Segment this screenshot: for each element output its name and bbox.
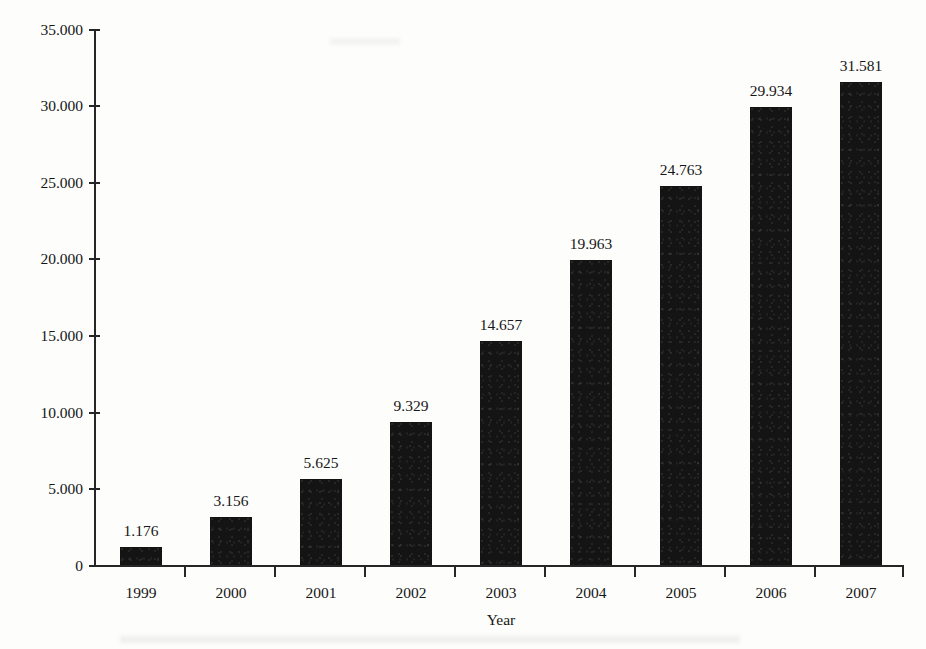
y-axis-tick-label: 35.000 (0, 22, 83, 38)
x-axis-label-2004: 2004 (551, 585, 631, 601)
bar-value-2001: 5.625 (281, 455, 361, 471)
x-axis-line (94, 565, 904, 567)
bar-2006 (750, 107, 792, 565)
bar-value-2005: 24.763 (641, 162, 721, 178)
bar-value-2004: 19.963 (551, 236, 631, 252)
x-axis-label-2006: 2006 (731, 585, 811, 601)
x-axis-tick (544, 567, 546, 577)
x-axis-tick (724, 567, 726, 577)
bar-value-1999: 1.176 (101, 523, 181, 539)
x-axis-tick (902, 567, 904, 577)
x-axis-tick (634, 567, 636, 577)
y-axis-title-label: Number of NPOs (0, 269, 63, 380)
x-axis-label-2002: 2002 (371, 585, 451, 601)
y-axis-tick-label: 10.000 (0, 405, 83, 421)
y-axis-line (94, 29, 96, 567)
bar-chart-figure: Number of NPOs 35.000 30.000 25.000 20.0… (0, 0, 926, 649)
bar-2004 (570, 260, 612, 565)
y-axis-tick-label: 15.000 (0, 328, 83, 344)
y-axis-tick-label: 5.000 (0, 481, 83, 497)
bar-2003 (480, 341, 522, 565)
bar-2005 (660, 186, 702, 565)
y-axis-tick (89, 182, 100, 184)
x-axis-label-2000: 2000 (191, 585, 271, 601)
y-axis-tick (89, 412, 100, 414)
scan-artifact (120, 636, 740, 643)
y-axis-tick (89, 335, 100, 337)
bar-value-2000: 3.156 (191, 493, 271, 509)
x-axis-label-2001: 2001 (281, 585, 361, 601)
y-axis-tick-label: 30.000 (0, 98, 83, 114)
y-axis-tick (89, 565, 100, 567)
x-axis-label-1999: 1999 (101, 585, 181, 601)
bar-value-2002: 9.329 (371, 398, 451, 414)
y-axis-tick (89, 488, 100, 490)
bar-value-2006: 29.934 (731, 83, 811, 99)
x-axis-tick (184, 567, 186, 577)
y-axis-tick-label: 20.000 (0, 251, 83, 267)
x-axis-title: Year (461, 611, 541, 629)
x-axis-tick (454, 567, 456, 577)
y-axis-tick-label: 25.000 (0, 175, 83, 191)
x-axis-label-2005: 2005 (641, 585, 721, 601)
bar-value-2003: 14.657 (461, 317, 541, 333)
x-axis-label-2007: 2007 (821, 585, 901, 601)
x-axis-tick (274, 567, 276, 577)
x-axis-tick (364, 567, 366, 577)
bar-2002 (390, 422, 432, 565)
scan-artifact (330, 39, 400, 44)
bar-2007 (840, 82, 882, 565)
y-axis-tick-label: 0 (0, 558, 83, 574)
bar-2001 (300, 479, 342, 565)
x-axis-label-2003: 2003 (461, 585, 541, 601)
bar-1999 (120, 547, 162, 565)
y-axis-tick (89, 29, 100, 31)
x-axis-tick (814, 567, 816, 577)
bar-value-2007: 31.581 (821, 58, 901, 74)
bar-2000 (210, 517, 252, 565)
y-axis-tick (89, 105, 100, 107)
y-axis-tick (89, 258, 100, 260)
